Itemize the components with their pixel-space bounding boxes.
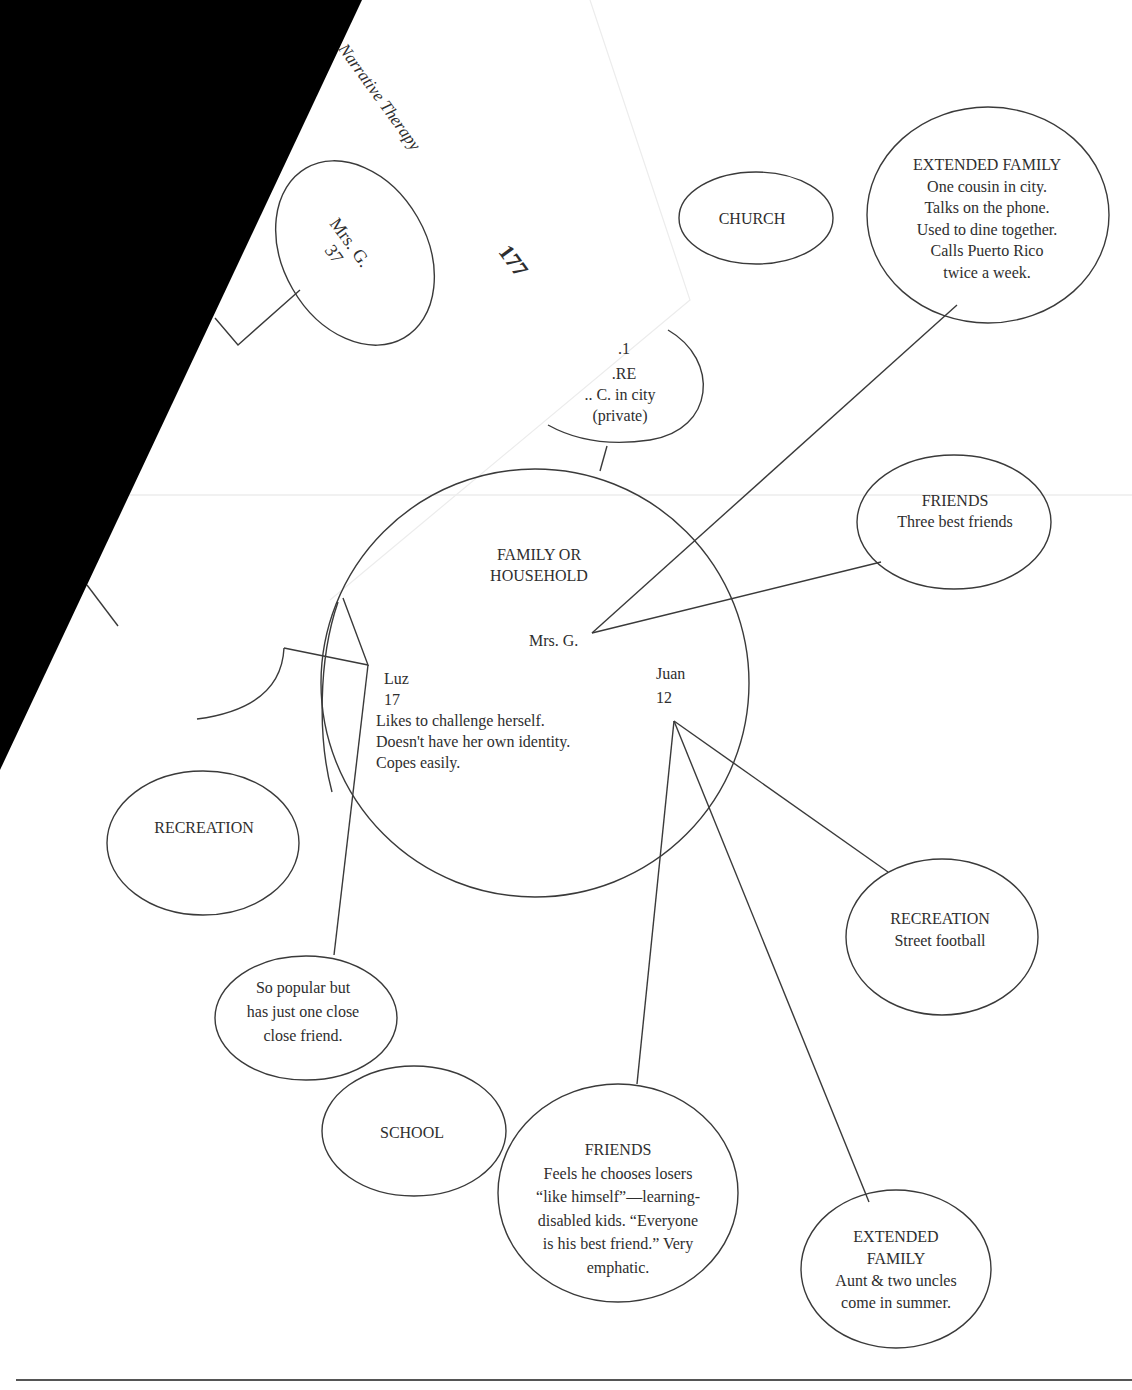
- overlay-stub-line: [87, 585, 118, 626]
- node-friends-mrs-g: FRIENDS Three best friends: [897, 490, 1013, 532]
- child-care-label: .1: [578, 338, 630, 359]
- node-extended-family-mrs-g: EXTENDED FAMILY One cousin in city. Talk…: [913, 154, 1061, 283]
- node-school: SCHOOL: [380, 1122, 444, 1143]
- overlay-lens-arc: [322, 602, 338, 792]
- node-extended-family-juan: EXTENDED FAMILY Aunt & two uncles come i…: [835, 1226, 956, 1314]
- member-mrs-g: Mrs. G.: [529, 630, 578, 651]
- node-recreation-juan: RECREATION Street football: [890, 908, 990, 952]
- mrs-g-overlay-connector: [215, 290, 300, 345]
- child-care-lines: .RE .. C. in city (private): [584, 363, 655, 426]
- child-care-connector: [600, 446, 607, 471]
- node-recreation-luz: RECREATION: [154, 817, 254, 838]
- overlay-arc-left: [197, 648, 284, 719]
- mrsg-to-extended-line: [592, 305, 957, 633]
- node-friends-luz: So popular but has just one close close …: [247, 976, 359, 1048]
- node-friends-juan: FRIENDS Feels he chooses losers “like hi…: [536, 1138, 700, 1279]
- recreation-oval-left: [107, 771, 299, 915]
- juan-to-extended-line: [674, 721, 869, 1202]
- juan-to-friends-line: [637, 721, 674, 1084]
- juan-to-recreation-line: [674, 721, 888, 872]
- member-luz: Luz 17 Likes to challenge herself. Doesn…: [376, 668, 570, 773]
- node-church: CHURCH: [719, 208, 786, 229]
- household-title: FAMILY OR HOUSEHOLD: [490, 544, 588, 586]
- ecomap-diagram: Narrative Therapy 177 Mrs. G. 37 .1 .RE …: [0, 0, 1132, 1390]
- member-juan: Juan 12: [656, 662, 685, 710]
- mrsg-to-friends-line: [592, 562, 881, 633]
- black-occluder: [0, 0, 362, 770]
